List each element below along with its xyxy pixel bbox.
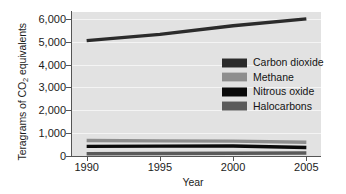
x-axis-line bbox=[71, 156, 321, 157]
series-line bbox=[87, 140, 307, 142]
y-axis-tick-label: 0 bbox=[24, 151, 66, 161]
chart-legend: Carbon dioxideMethaneNitrous oxideHaloca… bbox=[222, 56, 342, 114]
series-line bbox=[87, 146, 307, 148]
legend-item: Carbon dioxide bbox=[222, 56, 342, 69]
legend-item: Methane bbox=[222, 71, 342, 84]
series-line bbox=[87, 153, 307, 154]
x-axis-title-text: Year bbox=[182, 176, 203, 188]
x-axis-tick-label: 2000 bbox=[208, 161, 258, 173]
y-axis-tick-mark bbox=[66, 19, 71, 20]
legend-label: Methane bbox=[253, 72, 294, 83]
x-axis-tick-label: 1990 bbox=[62, 161, 112, 173]
legend-color-swatch bbox=[222, 72, 247, 82]
series-line bbox=[87, 19, 307, 41]
y-axis-tick-label: 4,000 bbox=[24, 60, 66, 70]
y-axis-tick-mark bbox=[66, 65, 71, 66]
y-axis-tick-label: 3,000 bbox=[24, 82, 66, 92]
y-axis-tick-labels: 01,0002,0003,0004,0005,0006,000 bbox=[22, 0, 66, 194]
y-axis-tick-label: 2,000 bbox=[24, 105, 66, 115]
legend-color-swatch bbox=[222, 101, 247, 111]
legend-label: Halocarbons bbox=[253, 101, 312, 112]
x-axis-tick-label: 1995 bbox=[135, 161, 185, 173]
legend-label: Carbon dioxide bbox=[253, 57, 324, 68]
y-axis-tick-label: 6,000 bbox=[24, 14, 66, 24]
y-axis-tick-mark bbox=[66, 156, 71, 157]
y-axis-tick-mark bbox=[66, 42, 71, 43]
x-axis-tick-label: 2005 bbox=[281, 161, 331, 173]
x-axis-tick-mark bbox=[306, 156, 307, 161]
x-axis-tick-mark bbox=[87, 156, 88, 161]
y-axis-tick-label: 1,000 bbox=[24, 128, 66, 138]
x-axis-tick-mark bbox=[160, 156, 161, 161]
legend-label: Nitrous oxide bbox=[253, 86, 314, 97]
legend-item: Nitrous oxide bbox=[222, 85, 342, 98]
y-axis-tick-mark bbox=[66, 133, 71, 134]
legend-item: Halocarbons bbox=[222, 100, 342, 113]
x-axis-tick-mark bbox=[233, 156, 234, 161]
legend-color-swatch bbox=[222, 58, 247, 68]
chart-figure: Teragrams of CO2 equivalents 01,0002,000… bbox=[0, 0, 346, 194]
legend-color-swatch bbox=[222, 87, 247, 97]
x-axis-title: Year bbox=[0, 176, 346, 188]
y-axis-tick-mark bbox=[66, 110, 71, 111]
y-axis-tick-mark bbox=[66, 87, 71, 88]
y-axis-tick-label: 5,000 bbox=[24, 37, 66, 47]
